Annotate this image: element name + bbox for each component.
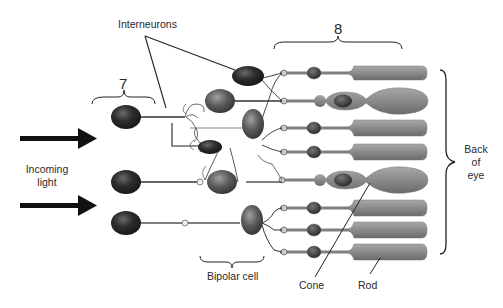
photoreceptor-row-2-cone: [280, 88, 428, 115]
incoming-light-arrow-top: [20, 128, 97, 149]
back-of-eye-line3: eye: [459, 169, 493, 182]
photoreceptor-row-5-cone: [279, 167, 428, 194]
ganglion-cell-3: [111, 211, 141, 235]
interneurons-label: Interneurons: [118, 18, 177, 31]
bipolar-brace: [200, 256, 264, 268]
photoreceptor-row-1-rod: [280, 66, 427, 80]
bipolar-cell-2: [242, 109, 264, 139]
bipolar-cell-label: Bipolar cell: [207, 270, 258, 283]
interneuron-2: [198, 140, 222, 154]
back-of-eye-line2: of: [459, 156, 493, 169]
incoming-light-arrow-bottom: [20, 195, 97, 216]
cone-label: Cone: [299, 279, 324, 292]
interneuron-1: [232, 66, 264, 86]
back-of-eye-label: Back of eye: [459, 143, 493, 182]
photoreceptor-row-3-rod: [280, 120, 427, 136]
photoreceptor-row-7-rod: [280, 222, 427, 238]
ganglion-group-number: 7: [119, 75, 127, 92]
rod-label: Rod: [358, 279, 377, 292]
ganglion-brace: [92, 90, 155, 104]
ganglion-cell-1: [111, 105, 141, 129]
photoreceptor-row-8-rod: [280, 244, 427, 260]
rod-pointer: [370, 258, 380, 274]
bipolar-cell-3: [207, 170, 237, 194]
retina-diagram: [0, 0, 503, 308]
photoreceptor-group-number: 8: [334, 20, 342, 37]
incoming-light-line1: Incoming: [24, 163, 70, 176]
bipolar-cell-1: [205, 89, 235, 113]
incoming-light-line2: light: [24, 176, 70, 189]
ganglion-cell-2: [111, 170, 141, 194]
photoreceptor-row-4-rod: [280, 144, 427, 160]
back-of-eye-brace: [440, 70, 455, 254]
incoming-light-label: Incoming light: [24, 163, 70, 189]
photoreceptor-row-6-rod: [280, 200, 427, 216]
bipolar-cell-4: [241, 205, 263, 235]
photoreceptor-brace: [274, 36, 402, 49]
back-of-eye-line1: Back: [459, 143, 493, 156]
